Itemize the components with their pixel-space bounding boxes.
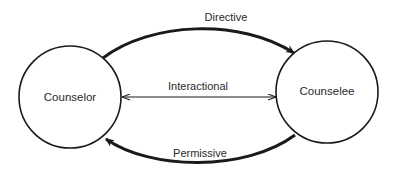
edge-directive: Directive [103, 11, 294, 58]
node-counselee: Counselee [276, 41, 378, 143]
permissive-label: Permissive [173, 147, 227, 159]
counselor-label: Counselor [44, 91, 97, 103]
directive-arrow-icon [103, 29, 294, 58]
edge-permissive: Permissive [106, 135, 295, 163]
directive-label: Directive [205, 11, 248, 23]
node-counselor: Counselor [19, 46, 121, 148]
counselee-label: Counselee [300, 85, 355, 97]
edge-interactional: Interactional [122, 80, 276, 97]
counseling-styles-diagram: Counselor Counselee Directive Interactio… [0, 0, 398, 175]
interactional-label: Interactional [168, 80, 228, 92]
